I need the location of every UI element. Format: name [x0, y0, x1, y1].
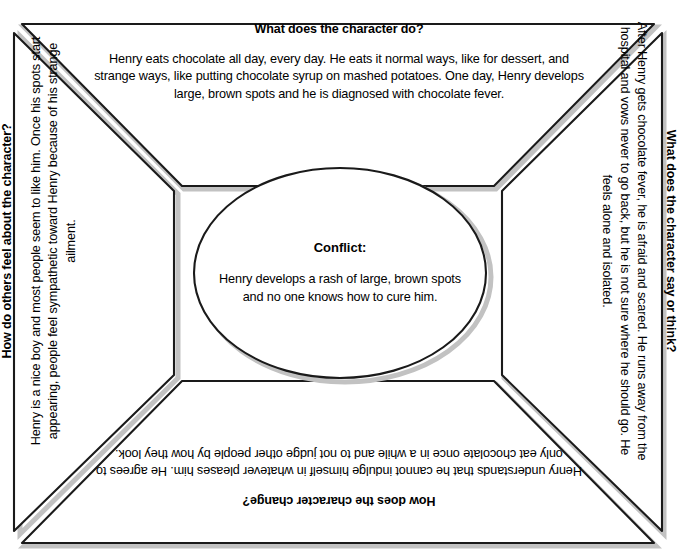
quadrant-right: What does the character say or think? Af…: [580, 21, 678, 461]
quadrant-bottom-body: Henry understands that he cannot indulge…: [88, 444, 590, 479]
quadrant-top: What does the character do? Henry eats c…: [88, 22, 590, 103]
quadrant-bottom-heading: How does the character change?: [88, 493, 590, 508]
quadrant-left-body: Henry is a nice boy and most people seem…: [28, 21, 80, 461]
quadrant-left: How do others feel about the character? …: [0, 21, 98, 461]
center-conflict-text: Conflict: Henry develops a rash of large…: [194, 168, 486, 379]
quadrant-left-heading: How do others feel about the character?: [0, 21, 15, 461]
center-conflict-region: Conflict: Henry develops a rash of large…: [194, 168, 486, 379]
quadrant-top-heading: What does the character do?: [88, 22, 590, 37]
quadrant-bottom: How does the character change? Henry und…: [88, 444, 590, 508]
quadrant-right-heading: What does the character say or think?: [663, 21, 678, 461]
conflict-body: Henry develops a rash of large, brown sp…: [210, 271, 470, 306]
quadrant-right-body: After Henry gets chocolate fever, he is …: [598, 21, 650, 461]
conflict-label: Conflict:: [314, 240, 367, 255]
worksheet-canvas: What does the character do? Henry eats c…: [0, 0, 678, 556]
quadrant-top-body: Henry eats chocolate all day, every day.…: [88, 51, 590, 103]
